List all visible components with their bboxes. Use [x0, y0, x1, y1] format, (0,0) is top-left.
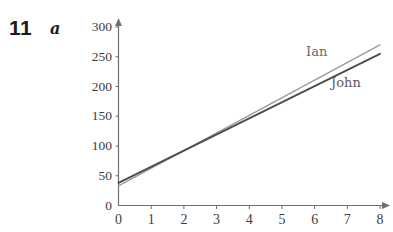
- series-label-john: John: [331, 76, 361, 89]
- x-axis-tick-label: 7: [335, 213, 359, 227]
- x-axis-tick-labels: 012345678: [0, 0, 393, 232]
- x-axis-tick-label: 0: [107, 213, 131, 227]
- x-axis-tick-label: 1: [139, 213, 163, 227]
- x-axis-tick-label: 4: [237, 213, 261, 227]
- x-axis-tick-label: 3: [205, 213, 229, 227]
- chart-figure: 11 a 050100150200250300 012345678 Ian Jo…: [0, 0, 393, 232]
- x-axis-tick-label: 2: [172, 213, 196, 227]
- series-label-ian: Ian: [306, 45, 327, 58]
- x-axis-tick-label: 8: [368, 213, 392, 227]
- x-axis-tick-label: 6: [303, 213, 327, 227]
- x-axis-tick-label: 5: [270, 213, 294, 227]
